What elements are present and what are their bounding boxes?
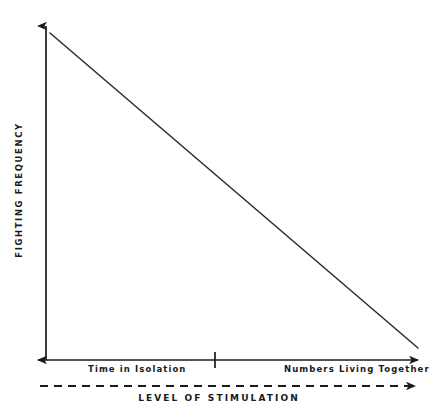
x-axis-title: LEVEL OF STIMULATION [0, 393, 438, 403]
y-axis-label: FIGHTING FREQUENCY [7, 60, 31, 320]
data-line-fighting-frequency [50, 33, 418, 348]
figure-container: FIGHTING FREQUENCY Time in Isolation Num… [0, 0, 438, 417]
x-axis-left-region-label: Time in Isolation [88, 364, 187, 374]
chart-plot-area [0, 0, 438, 417]
y-axis-label-text: FIGHTING FREQUENCY [14, 122, 24, 257]
x-axis-right-region-label: Numbers Living Together [284, 364, 430, 374]
